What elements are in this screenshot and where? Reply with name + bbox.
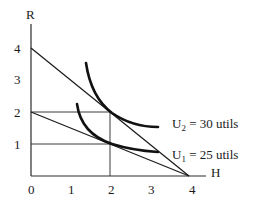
indifference-curve-u1	[77, 104, 158, 152]
x-tick-1: 1	[68, 182, 75, 197]
u1-label: U1 = 25 utils	[172, 147, 238, 164]
x-tick-4: 4	[189, 182, 196, 197]
y-axis-label: R	[26, 7, 35, 22]
x-tick-0: 0	[28, 182, 35, 197]
u2-label: U2 = 30 utils	[172, 116, 238, 133]
y-tick-3: 3	[14, 72, 21, 87]
y-tick-1: 1	[14, 137, 21, 152]
x-tick-2: 2	[108, 182, 115, 197]
x-axis-label: H	[211, 165, 220, 180]
indifference-diagram: R H 4 3 2 1 0 1 2 3 4 U2 = 30 utils U1 =…	[0, 0, 262, 206]
indifference-curve-u2	[86, 63, 158, 127]
y-tick-4: 4	[14, 41, 21, 56]
x-tick-3: 3	[148, 182, 155, 197]
y-tick-2: 2	[14, 105, 21, 120]
